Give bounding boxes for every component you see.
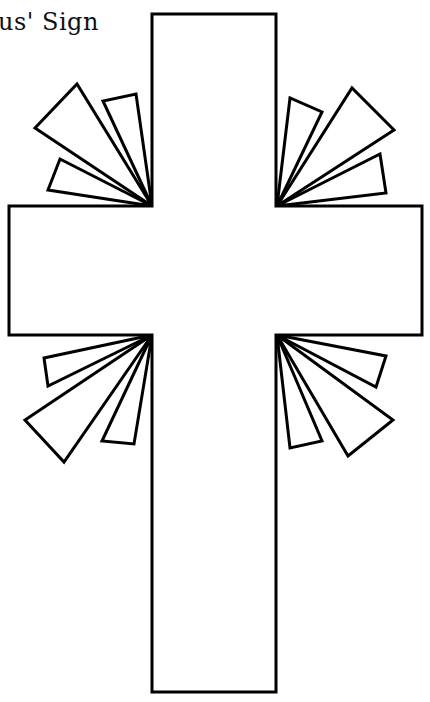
cross-illustration bbox=[0, 0, 430, 702]
